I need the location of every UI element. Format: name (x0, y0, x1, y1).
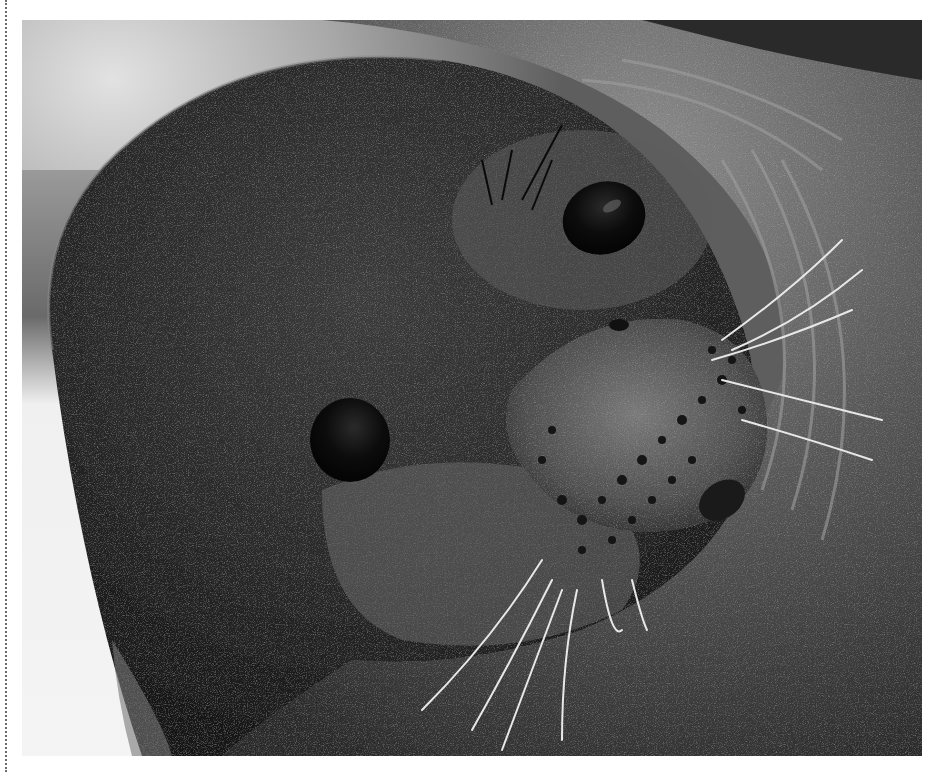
nostril-icon (609, 319, 629, 331)
dotted-margin-rule (5, 0, 7, 772)
seal-photograph (22, 20, 922, 756)
left-eye (310, 398, 390, 482)
seal-illustration (22, 20, 922, 756)
